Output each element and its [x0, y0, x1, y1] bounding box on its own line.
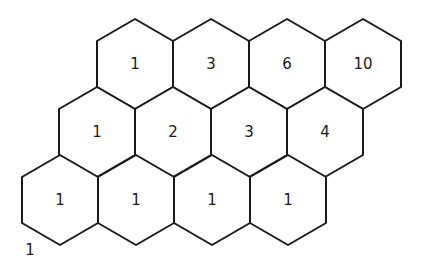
hex-value-label: 1 — [131, 191, 141, 209]
hex-cells-layer: 1361012341111 — [22, 19, 401, 245]
hex-value-label: 1 — [207, 191, 217, 209]
hex-value-label: 4 — [320, 123, 330, 141]
hex-value-label: 1 — [92, 123, 102, 141]
corner-label: 1 — [25, 241, 35, 259]
hex-value-label: 1 — [130, 55, 140, 73]
hex-value-label: 3 — [206, 55, 216, 73]
hex-value-label: 1 — [283, 191, 293, 209]
hex-value-label: 6 — [282, 55, 292, 73]
hex-value-label: 3 — [244, 123, 254, 141]
hex-value-label: 10 — [353, 55, 372, 73]
hex-value-label: 1 — [55, 191, 65, 209]
hex-value-label: 2 — [168, 123, 178, 141]
hex-grid-diagram: 1361012341111 1 — [0, 0, 431, 271]
